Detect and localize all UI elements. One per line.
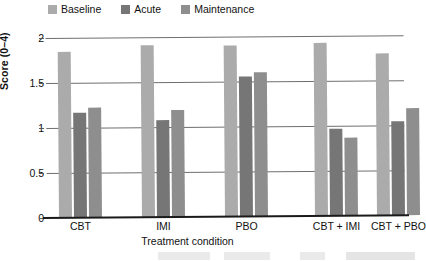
legend-label-maintenance: Maintenance: [194, 4, 254, 15]
bar-maintenance: [406, 108, 420, 215]
bar-group: [224, 36, 268, 216]
bar-baseline: [141, 45, 155, 217]
legend-swatch-baseline: [48, 5, 57, 14]
legend-label-baseline: Baseline: [61, 4, 101, 15]
x-axis-tick-label: CBT + PBO: [371, 221, 426, 232]
legend-label-acute: Acute: [134, 4, 161, 15]
bar-series-container: [46, 35, 405, 218]
bar-maintenance: [88, 108, 102, 218]
legend-swatch-maintenance: [181, 5, 190, 14]
y-axis-ticks: 00.511.52: [0, 38, 44, 218]
bar-acute: [156, 120, 170, 217]
y-axis-tick-mark: [39, 173, 44, 174]
y-axis-tick-mark: [39, 83, 44, 84]
bar-acute: [73, 112, 87, 217]
bar-maintenance: [344, 137, 358, 215]
x-axis-tick-label: CBT: [70, 221, 91, 232]
bar-baseline: [314, 43, 328, 216]
bar-group: [58, 38, 102, 218]
y-axis-tick-mark: [39, 38, 44, 39]
bar-maintenance: [254, 72, 268, 216]
x-axis-tick-label: CBT + IMI: [313, 221, 360, 232]
plot-area: [46, 35, 405, 218]
bar-group: [376, 35, 420, 215]
x-axis-tick-label: PBO: [235, 221, 257, 232]
x-axis-tick-label: IMI: [156, 221, 171, 232]
legend-item-acute: Acute: [121, 4, 161, 15]
x-axis-title-text: Treatment condition: [141, 235, 233, 247]
bar-baseline: [58, 51, 72, 218]
x-axis-ticks: CBTIMIPBOCBT + IMICBT + PBO: [47, 221, 405, 235]
page-caption-fragment: [150, 252, 415, 260]
legend-item-baseline: Baseline: [48, 4, 101, 15]
bar-acute: [391, 122, 405, 216]
bar-baseline: [224, 46, 238, 217]
bar-acute: [239, 76, 253, 216]
bar-acute: [329, 128, 343, 215]
legend-swatch-acute: [121, 5, 130, 14]
x-axis-title: Treatment condition: [0, 235, 419, 247]
legend-item-maintenance: Maintenance: [181, 4, 254, 15]
y-axis-tick-mark: [39, 128, 44, 129]
bar-group: [141, 37, 185, 217]
bar-baseline: [376, 53, 390, 215]
bar-group: [314, 36, 358, 216]
bar-maintenance: [171, 110, 185, 217]
chart-legend: Baseline Acute Maintenance: [48, 2, 254, 16]
